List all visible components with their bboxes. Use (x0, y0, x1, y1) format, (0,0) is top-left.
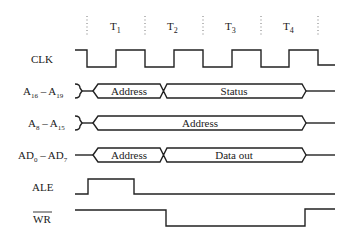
signal-label-wr: WR (33, 213, 51, 225)
clk-waveform (75, 50, 335, 67)
ale-waveform (75, 179, 335, 194)
signal-label-ad0-ad7: AD0 – AD7 (18, 149, 68, 164)
a16-a19-segment-address: Address (111, 85, 147, 97)
timing-diagram: T1 T2 T3 T4 CLK A16 – A19 Address Status… (0, 0, 353, 241)
wr-waveform (75, 209, 335, 226)
period-label-t3: T3 (225, 20, 236, 35)
signal-label-clk: CLK (31, 53, 53, 65)
signal-label-a8-a15: A8 – A15 (28, 117, 65, 132)
ad0-ad7-segment-data-out: Data out (215, 149, 253, 161)
a8-a15-segment-address: Address (182, 117, 218, 129)
ad0-ad7-segment-address: Address (111, 149, 147, 161)
signal-label-ale: ALE (32, 181, 54, 193)
period-label-t2: T2 (167, 20, 178, 35)
period-label-t4: T4 (283, 20, 294, 35)
a16-a19-segment-status: Status (221, 85, 248, 97)
signal-label-a16-a19: A16 – A19 (23, 85, 64, 100)
period-label-t1: T1 (110, 20, 121, 35)
